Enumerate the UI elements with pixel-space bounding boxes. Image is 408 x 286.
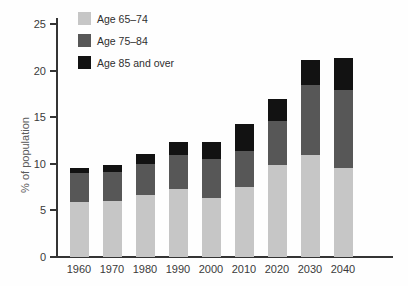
bar-1980-segment-1 — [136, 164, 155, 196]
legend-label-age-75-84: Age 75–84 — [97, 35, 148, 47]
bar-1980-segment-2 — [136, 154, 155, 164]
bar-2010-segment-0 — [235, 187, 254, 257]
x-tick-label-1960: 1960 — [62, 263, 96, 275]
y-tick-label-5: 5 — [22, 204, 46, 216]
y-tick-mark-15 — [50, 116, 56, 118]
x-tick-label-1970: 1970 — [95, 263, 129, 275]
bar-1970-segment-1 — [103, 172, 122, 201]
y-axis-line — [56, 18, 58, 258]
y-tick-mark-20 — [50, 70, 56, 72]
bar-1960-segment-0 — [70, 202, 89, 257]
x-tick-label-2030: 2030 — [293, 263, 327, 275]
y-tick-mark-0 — [50, 256, 56, 258]
legend-swatch-age-65-74-icon — [78, 12, 91, 25]
stacked-bar-chart: % of population Age 65–74 Age 75–84 Age … — [0, 0, 408, 286]
legend-label-age-85-over: Age 85 and over — [97, 57, 174, 69]
y-tick-label-20: 20 — [22, 65, 46, 77]
y-tick-label-25: 25 — [22, 18, 46, 30]
y-tick-label-10: 10 — [22, 158, 46, 170]
bar-1980-segment-0 — [136, 195, 155, 257]
bar-2010-segment-1 — [235, 151, 254, 187]
x-tick-label-1980: 1980 — [128, 263, 162, 275]
bar-2010-segment-2 — [235, 124, 254, 151]
bar-2020-segment-2 — [268, 99, 287, 121]
bar-1990-segment-1 — [169, 155, 188, 189]
y-tick-mark-10 — [50, 163, 56, 165]
bar-2030-segment-2 — [301, 60, 320, 84]
bar-2020-segment-1 — [268, 121, 287, 165]
bar-2040-segment-2 — [334, 58, 353, 90]
y-tick-label-0: 0 — [22, 251, 46, 263]
bar-2040-segment-1 — [334, 90, 353, 167]
bar-1990-segment-0 — [169, 189, 188, 257]
y-tick-mark-25 — [50, 23, 56, 25]
bar-2000-segment-2 — [202, 142, 221, 159]
bar-1960-segment-1 — [70, 173, 89, 202]
x-tick-label-2040: 2040 — [326, 263, 360, 275]
legend-swatch-age-75-84-icon — [78, 34, 91, 47]
legend-swatch-age-85-over-icon — [78, 56, 91, 69]
bar-2030-segment-1 — [301, 85, 320, 156]
bar-2030-segment-0 — [301, 155, 320, 257]
y-tick-mark-5 — [50, 209, 56, 211]
bar-1970-segment-0 — [103, 201, 122, 257]
bar-2000-segment-1 — [202, 159, 221, 198]
x-tick-label-2010: 2010 — [227, 263, 261, 275]
bar-2040-segment-0 — [334, 168, 353, 257]
y-tick-label-15: 15 — [22, 111, 46, 123]
x-tick-label-2000: 2000 — [194, 263, 228, 275]
legend-label-age-65-74: Age 65–74 — [97, 13, 148, 25]
bar-2020-segment-0 — [268, 165, 287, 257]
bar-1970-segment-2 — [103, 165, 122, 172]
x-tick-label-2020: 2020 — [260, 263, 294, 275]
bar-2000-segment-0 — [202, 198, 221, 257]
bar-1990-segment-2 — [169, 142, 188, 155]
bar-1960-segment-2 — [70, 168, 89, 173]
x-tick-label-1990: 1990 — [161, 263, 195, 275]
